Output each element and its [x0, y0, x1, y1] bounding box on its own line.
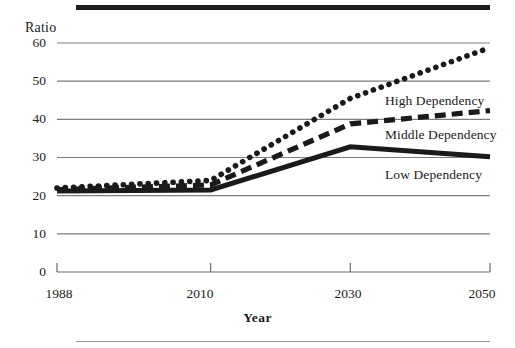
- gridlines-group: [57, 43, 490, 234]
- chart-figure: Ratio Year 60 50 40 30 20 10 0 1988 2010…: [0, 0, 515, 348]
- chart-plot-canvas: [0, 0, 515, 348]
- axes-group: [57, 263, 490, 272]
